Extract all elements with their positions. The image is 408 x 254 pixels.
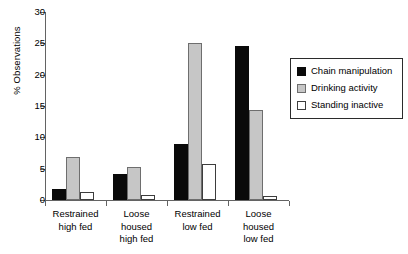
y-tick-label: 15: [21, 101, 45, 110]
legend-item[interactable]: Standing inactive: [297, 98, 383, 112]
y-axis-title: % Observations: [11, 1, 22, 121]
legend-swatch-icon: [297, 101, 306, 110]
y-tick-label: 5: [21, 164, 45, 173]
x-category-label: Restrainedlow fed: [167, 208, 228, 233]
legend-item[interactable]: Chain manipulation: [297, 64, 392, 78]
y-tick-label: 0: [21, 195, 45, 204]
bar-drinking-activity: [127, 167, 141, 200]
legend-label: Drinking activity: [311, 83, 378, 93]
bar-standing-inactive: [141, 195, 155, 200]
legend: Chain manipulationDrinking activityStand…: [290, 58, 403, 119]
bar-chart: % Observations 051015202530 Restrainedhi…: [0, 0, 408, 254]
legend-item[interactable]: Drinking activity: [297, 81, 378, 95]
y-tick-label: 30: [21, 7, 45, 16]
legend-swatch-icon: [297, 67, 306, 76]
bar-standing-inactive: [80, 192, 94, 200]
x-tick-mark: [228, 201, 229, 206]
x-tick-mark: [289, 201, 290, 206]
y-tick-label: 20: [21, 70, 45, 79]
x-tick-mark: [106, 201, 107, 206]
plot-area: [45, 12, 289, 200]
bar-drinking-activity: [66, 157, 80, 200]
x-category-label: Loosehousedlow fed: [228, 208, 289, 246]
y-tick-label: 25: [21, 38, 45, 47]
bar-chain-manipulation: [235, 46, 249, 200]
y-tick-label: 10: [21, 132, 45, 141]
legend-label: Standing inactive: [311, 100, 383, 110]
legend-label: Chain manipulation: [311, 66, 392, 76]
x-category-label: Loosehousedhigh fed: [106, 208, 167, 246]
bar-chain-manipulation: [113, 174, 127, 200]
x-tick-mark: [45, 201, 46, 206]
x-axis-labels: Restrainedhigh fedLoosehousedhigh fedRes…: [45, 208, 289, 254]
bar-drinking-activity: [188, 43, 202, 200]
x-category-label: Restrainedhigh fed: [45, 208, 106, 233]
x-tick-mark: [167, 201, 168, 206]
bar-standing-inactive: [202, 164, 216, 200]
bar-standing-inactive: [263, 196, 277, 200]
bar-chain-manipulation: [174, 144, 188, 200]
legend-swatch-icon: [297, 84, 306, 93]
bar-drinking-activity: [249, 110, 263, 200]
bar-chain-manipulation: [52, 189, 66, 200]
